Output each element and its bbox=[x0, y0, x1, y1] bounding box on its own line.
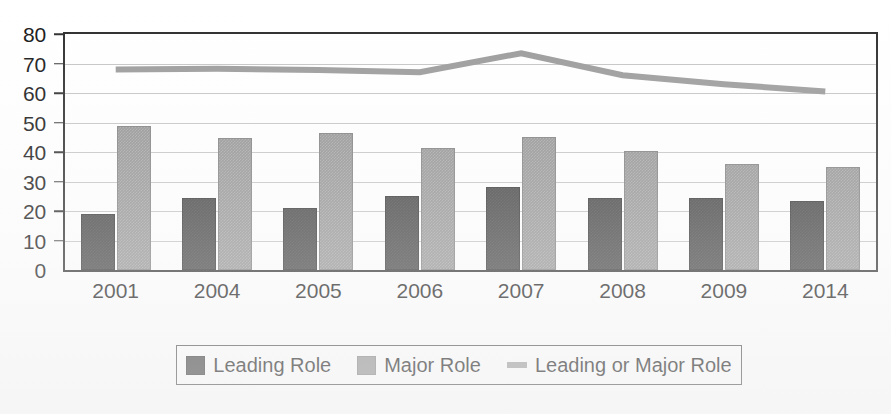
y-axis-tick-label: 10 bbox=[23, 230, 46, 251]
x-axis-tick-label: 2007 bbox=[498, 278, 545, 304]
legend-label-leading-role: Leading Role bbox=[213, 355, 331, 375]
y-axis-tick-label: 80 bbox=[23, 24, 46, 45]
legend-item-leading-or-major-role: Leading or Major Role bbox=[507, 355, 732, 375]
chart-legend: Leading Role Major Role Leading or Major… bbox=[176, 345, 742, 385]
legend-item-major-role: Major Role bbox=[357, 355, 481, 375]
bar-chart: 01020304050607080 2001200420052006200720… bbox=[0, 0, 891, 414]
y-axis-tick-label: 0 bbox=[35, 260, 46, 281]
x-axis-tick-label: 2014 bbox=[802, 278, 849, 304]
y-axis-tick-label: 20 bbox=[23, 201, 46, 222]
y-axis-tick-labels: 01020304050607080 bbox=[0, 32, 56, 272]
legend-label-leading-or-major-role: Leading or Major Role bbox=[535, 355, 732, 375]
legend-item-leading-role: Leading Role bbox=[186, 355, 331, 375]
x-axis-tick-label: 2006 bbox=[396, 278, 443, 304]
y-axis-tick-label: 30 bbox=[23, 171, 46, 192]
line-series-leading-or-major-role bbox=[116, 53, 826, 91]
y-axis-tick-label: 70 bbox=[23, 53, 46, 74]
x-axis-tick-label: 2008 bbox=[599, 278, 646, 304]
x-axis-tick-labels: 20012004200520062007200820092014 bbox=[63, 278, 878, 312]
y-axis-tick-label: 50 bbox=[23, 112, 46, 133]
legend-swatch-major-role-icon bbox=[357, 356, 376, 375]
plot-area bbox=[63, 32, 878, 272]
x-axis-tick-label: 2004 bbox=[194, 278, 241, 304]
x-axis-tick-label: 2009 bbox=[701, 278, 748, 304]
x-axis-tick-label: 2005 bbox=[295, 278, 342, 304]
line-series-layer bbox=[65, 34, 876, 270]
y-axis-tick-label: 60 bbox=[23, 83, 46, 104]
legend-swatch-combined-line-icon bbox=[507, 362, 527, 368]
y-axis-tick-label: 40 bbox=[23, 142, 46, 163]
x-axis-tick-label: 2001 bbox=[92, 278, 139, 304]
legend-swatch-leading-role-icon bbox=[186, 356, 205, 375]
legend-label-major-role: Major Role bbox=[384, 355, 481, 375]
